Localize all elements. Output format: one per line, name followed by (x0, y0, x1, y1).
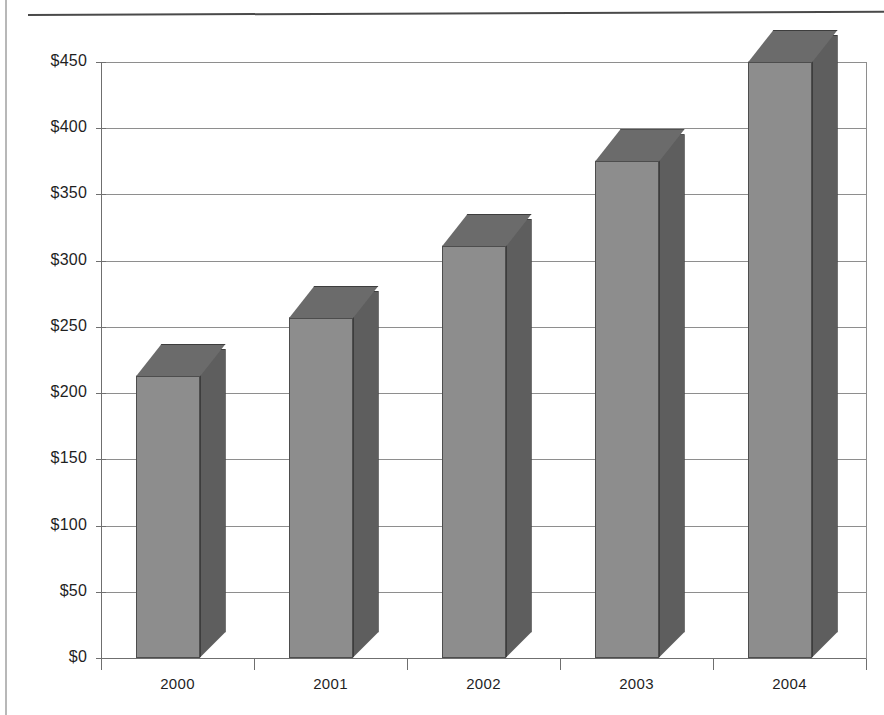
bar-side-face (812, 35, 838, 658)
x-axis-tick (713, 659, 714, 670)
bar-front-face (748, 62, 812, 658)
x-axis-label-2004: 2004 (730, 675, 850, 692)
bar-front-face (595, 161, 659, 658)
bar-front-face (136, 376, 200, 658)
x-axis-tick (560, 659, 561, 670)
y-axis-label: $400 (21, 118, 87, 136)
y-axis-label: $150 (21, 449, 87, 467)
bars-group (101, 62, 866, 658)
y-axis-label: $0 (21, 648, 87, 666)
x-axis-tick (254, 659, 255, 670)
x-axis-line (101, 658, 867, 659)
bar-side-face (659, 134, 685, 658)
x-axis-tick (407, 659, 408, 670)
bar-front-face (289, 318, 353, 658)
y-axis-label: $50 (21, 582, 87, 600)
x-axis-label-2002: 2002 (424, 675, 544, 692)
y-axis-label: $450 (21, 52, 87, 70)
y-axis-label: $100 (21, 516, 87, 534)
x-axis-tick (866, 659, 867, 670)
bar-front-face (442, 246, 506, 658)
bar-side-face (506, 219, 532, 658)
bar-side-face (200, 349, 226, 658)
x-axis-label-2000: 2000 (118, 675, 238, 692)
y-axis-label: $300 (21, 251, 87, 269)
chart-page: $0$50$100$150$200$250$300$350$400$450 20… (0, 0, 884, 715)
bar-2003[interactable] (595, 161, 659, 658)
y-axis-label: $250 (21, 317, 87, 335)
plot-right-border (866, 62, 867, 659)
y-axis-label: $200 (21, 383, 87, 401)
bar-chart: $0$50$100$150$200$250$300$350$400$450 20… (0, 0, 884, 715)
x-axis-label-2003: 2003 (577, 675, 697, 692)
bar-2001[interactable] (289, 318, 353, 658)
y-axis-label: $350 (21, 184, 87, 202)
bar-side-face (353, 291, 379, 658)
bar-2002[interactable] (442, 246, 506, 658)
x-axis-label-2001: 2001 (271, 675, 391, 692)
x-axis-tick (101, 659, 102, 670)
bar-2000[interactable] (136, 376, 200, 658)
bar-2004[interactable] (748, 62, 812, 658)
